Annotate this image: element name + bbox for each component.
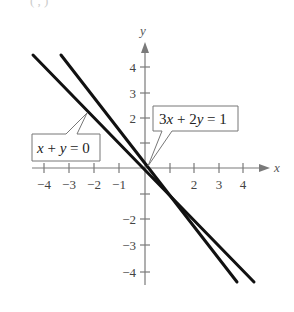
y-tick-label: 3	[130, 86, 137, 101]
y-tick-label: −3	[122, 238, 136, 253]
x-tick-label: 4	[240, 177, 247, 192]
y-axis-label: y	[138, 23, 146, 38]
x-tick-label: −4	[37, 177, 51, 192]
callout-x-plus-y-eq-0: x + y = 0	[32, 113, 100, 161]
callout-label: 3x + 2y = 1	[159, 111, 227, 127]
y-tick-label: −4	[122, 265, 136, 280]
y-axis-arrow-icon	[141, 42, 149, 53]
callout-3x-plus-2y-eq-1: 3x + 2y = 1	[148, 106, 238, 166]
x-axis-label: x	[273, 160, 280, 175]
y-tick-label: −2	[122, 212, 136, 227]
x-axis-arrow-icon	[259, 164, 270, 172]
x-tick-label: 2	[191, 177, 198, 192]
x-tick-label: −1	[112, 177, 126, 192]
x-tick-label: −2	[87, 177, 101, 192]
y-tick-label: 4	[130, 60, 137, 75]
cutoff-text: ( , )	[30, 0, 48, 8]
callout-label: x + y = 0	[36, 140, 90, 156]
graph-figure: ( , ) x −4 −3 −2 −1 2 3 4 y 4 3	[0, 0, 294, 312]
x-tick-label: 3	[216, 177, 223, 192]
x-tick-label: −3	[62, 177, 76, 192]
y-tick-label: 2	[130, 111, 137, 126]
